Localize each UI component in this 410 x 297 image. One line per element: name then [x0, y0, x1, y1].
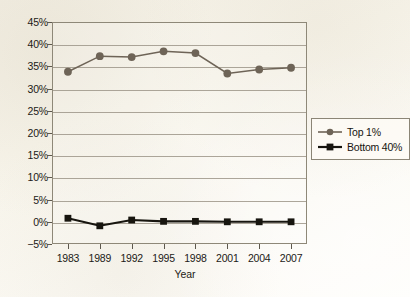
x-axis-tick-mark [259, 244, 260, 249]
legend-label-top-1: Top 1% [347, 126, 381, 138]
data-point-square [96, 222, 103, 229]
x-axis-tick-mark [132, 244, 133, 249]
legend-item-bottom-40[interactable]: Bottom 40% [317, 139, 402, 154]
chart-screenshot: −5%0%5%10%15%20%25%30%35%40%45% 19831989… [0, 0, 410, 297]
data-point-square [128, 217, 135, 224]
y-axis-tick-label: 25% [2, 105, 48, 117]
series-bottom-40 [65, 215, 295, 229]
legend-label-bottom-40: Bottom 40% [347, 141, 402, 153]
data-point-square [256, 218, 263, 225]
data-point-circle [287, 64, 295, 72]
y-axis-tick-label: 0% [2, 216, 48, 228]
y-axis-tick-mark [47, 244, 52, 245]
y-axis-tick-label: 30% [2, 83, 48, 95]
data-point-circle [96, 52, 104, 60]
data-point-circle [223, 70, 231, 78]
data-point-square [160, 218, 167, 225]
x-axis-tick-mark [227, 244, 228, 249]
x-axis-tick-mark [195, 244, 196, 249]
y-axis-tick-label: 10% [2, 171, 48, 183]
chart-legend: Top 1% Bottom 40% [311, 118, 410, 160]
y-axis-tick-label: 45% [2, 16, 48, 28]
data-point-circle [64, 68, 72, 76]
y-axis-tick-label: 35% [2, 60, 48, 72]
y-axis-tick-label: 5% [2, 194, 48, 206]
data-point-circle [160, 47, 168, 55]
data-point-square [65, 215, 72, 222]
x-axis-tick-mark [100, 244, 101, 249]
y-axis-tick-label: 20% [2, 127, 48, 139]
x-axis-tick-label: 2007 [271, 252, 311, 264]
y-axis-tick-label: 15% [2, 149, 48, 161]
legend-marker-circle-icon [317, 126, 343, 138]
data-point-circle [255, 66, 263, 74]
data-point-circle [192, 49, 200, 57]
y-axis-tick-label: −5% [2, 238, 48, 250]
x-axis-title: Year [155, 268, 215, 280]
legend-marker-square-icon [317, 141, 343, 153]
data-point-square [192, 218, 199, 225]
y-axis-tick-label: 40% [2, 38, 48, 50]
data-point-circle [128, 53, 136, 61]
x-axis-tick-mark [164, 244, 165, 249]
x-axis-tick-mark [291, 244, 292, 249]
x-axis-tick-mark [68, 244, 69, 249]
data-point-square [288, 218, 295, 225]
data-series-layer [52, 22, 307, 244]
data-point-square [224, 218, 231, 225]
legend-item-top-1[interactable]: Top 1% [317, 124, 402, 139]
series-top-1 [64, 47, 295, 77]
